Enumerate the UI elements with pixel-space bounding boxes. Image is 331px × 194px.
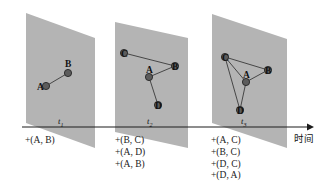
snapshot-plane-t1 xyxy=(26,13,95,148)
operation-t3-1: +(A, C) xyxy=(211,135,241,147)
node-label-t2-B: B xyxy=(172,63,178,73)
node-label-t3-B: B xyxy=(265,67,271,77)
operations-list-t3: +(A, C)+(B, C)+(D, C)+(D, A) xyxy=(211,135,241,182)
graph-node-t1-B xyxy=(64,69,71,76)
operations-list-t1: +(A, B) xyxy=(25,135,55,147)
node-label-t1-A: A xyxy=(37,83,44,93)
node-label-t1-B: B xyxy=(65,60,71,70)
time-axis-caption: 时间 xyxy=(294,134,314,144)
time-tick-subscript-t1: 1 xyxy=(60,122,63,128)
operation-t3-4: +(D, A) xyxy=(211,170,241,182)
node-label-t2-A: A xyxy=(146,66,153,76)
node-label-t2-C: C xyxy=(121,50,128,60)
node-label-t3-C: C xyxy=(222,54,229,64)
operation-t3-3: +(D, C) xyxy=(211,159,241,171)
temporal-graph-figure: ABCBADCBADt1t2t3+(A, B)+(B, C)+(A, D)+(A… xyxy=(0,0,331,194)
time-tick-label-t1: t1 xyxy=(58,117,63,128)
operation-t1-1: +(A, B) xyxy=(25,135,55,147)
time-tick-label-t2: t2 xyxy=(147,117,152,128)
operation-t2-1: +(B, C) xyxy=(115,135,145,147)
operation-t2-2: +(A, D) xyxy=(115,147,145,159)
time-axis-arrowhead xyxy=(307,123,314,130)
time-tick-subscript-t2: 2 xyxy=(149,122,152,128)
time-tick-label-t3: t3 xyxy=(241,117,246,128)
diagram-canvas xyxy=(0,0,331,194)
time-tick-subscript-t3: 3 xyxy=(243,122,246,128)
operations-list-t2: +(B, C)+(A, D)+(A, B) xyxy=(115,135,145,170)
operation-t2-3: +(A, B) xyxy=(115,159,145,171)
operation-t3-2: +(B, C) xyxy=(211,147,241,159)
node-label-t3-A: A xyxy=(243,71,250,81)
node-label-t2-D: D xyxy=(155,102,162,112)
